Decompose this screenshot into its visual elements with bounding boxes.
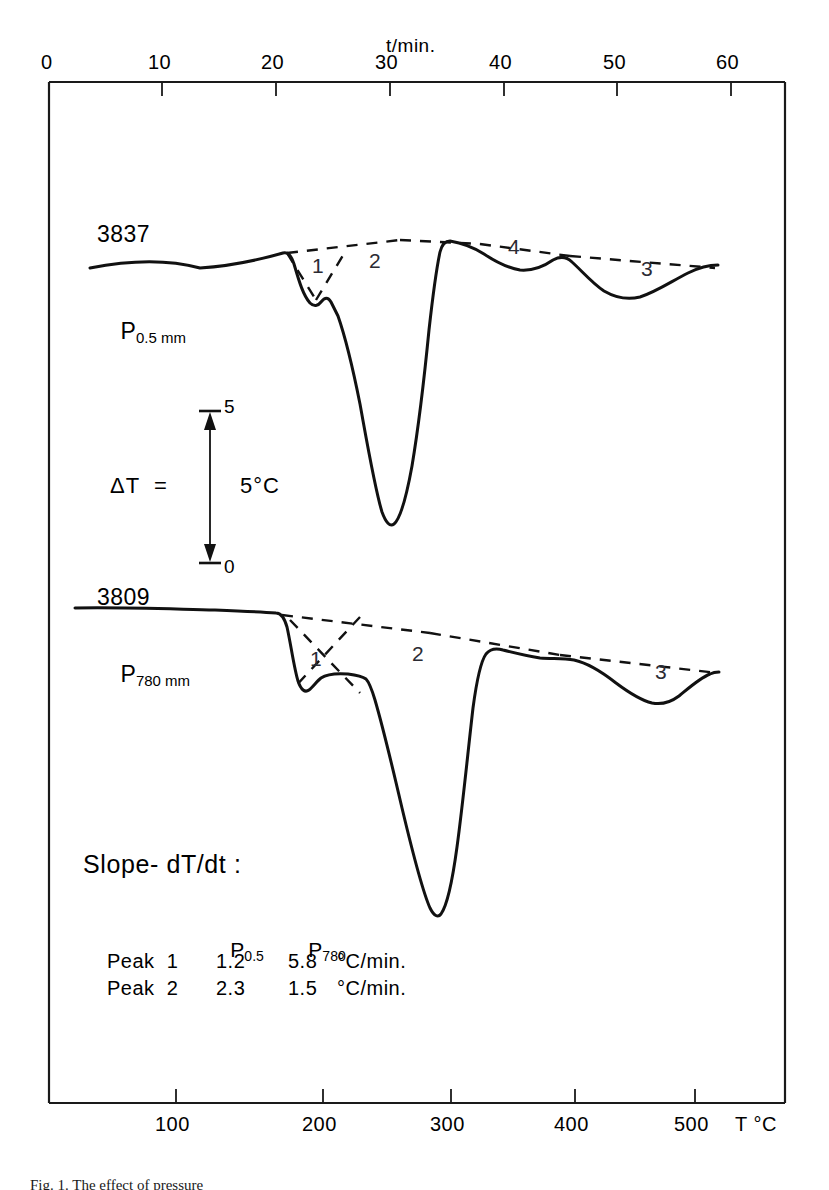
- pressure-symbol-3837: P: [121, 318, 136, 344]
- pressure-subscript-3837: 0.5 mm: [136, 329, 186, 346]
- top-tick-40: 40: [489, 52, 512, 72]
- bottom-tick-400: 400: [554, 1114, 589, 1134]
- curve-3809-baselines: [282, 615, 718, 693]
- peak-label-3837-2: 2: [369, 250, 381, 271]
- delta-t-scale-bar: [199, 411, 221, 563]
- scale-arrow-up: [204, 412, 216, 430]
- peak-label-3809-2: 2: [412, 643, 424, 664]
- top-tick-60: 60: [716, 52, 739, 72]
- slope-row-1-peak: Peak 1: [107, 951, 178, 971]
- curve-pressure-3809: P780 mm: [95, 640, 190, 711]
- top-tick-50: 50: [603, 52, 626, 72]
- scale-bottom-value: 0: [224, 557, 235, 576]
- baseline-3837-peak4-end: [480, 244, 570, 256]
- slope-row-1-units: °C/min.: [337, 951, 406, 971]
- baseline-3837-peak4-start: [400, 240, 480, 244]
- bottom-tick-300: 300: [430, 1114, 465, 1134]
- peak-label-3809-1: 1: [310, 648, 322, 669]
- curve-pressure-3837: P0.5 mm: [95, 297, 186, 368]
- bottom-tick-500: 500: [674, 1114, 709, 1134]
- peak-label-3837-1: 1: [312, 255, 324, 276]
- peak-label-3837-3: 3: [641, 258, 653, 279]
- bottom-tick-100: 100: [155, 1114, 190, 1134]
- scale-top-value: 5: [224, 397, 235, 416]
- baseline-3809-mid: [430, 633, 560, 655]
- peak-label-3837-4: 4: [508, 236, 520, 257]
- top-tick-20: 20: [261, 52, 284, 72]
- peak-label-3809-3: 3: [655, 661, 667, 682]
- pressure-symbol-3809: P: [121, 661, 136, 687]
- slope-row-2-peak: Peak 2: [107, 978, 178, 998]
- slope-row-2-p780: 1.5: [288, 978, 317, 998]
- slope-row-2-p05: 2.3: [216, 978, 245, 998]
- top-tick-30: 30: [375, 52, 398, 72]
- figure-container: t/min. 0 10 20 30 40 50 60 100 200 300 4…: [0, 0, 829, 1190]
- top-axis-ticks: [49, 82, 731, 96]
- slope-table-title: Slope- dT/dt :: [83, 852, 241, 877]
- delta-t-magnitude: 5°C: [240, 475, 280, 497]
- baseline-3837-peak1-2: [287, 240, 400, 253]
- curve-id-3809: 3809: [97, 586, 150, 609]
- bottom-tick-200: 200: [302, 1114, 337, 1134]
- baseline-3809-peak1-left: [292, 617, 360, 690]
- delta-t-label: ΔT =: [110, 475, 168, 497]
- slope-row-1-p05: 1.2: [216, 951, 245, 971]
- scale-arrow-down: [204, 544, 216, 562]
- slope-row-2-units: °C/min.: [337, 978, 406, 998]
- baseline-3809-peak2-top: [282, 615, 430, 633]
- figure-caption: Fig. 1. The effect of pressure: [30, 1177, 530, 1190]
- curve-3837-trace: [90, 241, 718, 525]
- top-tick-10: 10: [148, 52, 171, 72]
- pressure-subscript-3809: 780 mm: [136, 672, 190, 689]
- bottom-axis-label: T °C: [735, 1114, 777, 1134]
- curve-id-3837: 3837: [97, 223, 150, 246]
- col-header-p05-subscript: 0.5: [244, 948, 263, 964]
- bottom-axis-ticks: [176, 1089, 695, 1103]
- top-tick-0: 0: [41, 52, 53, 72]
- slope-row-1-p780: 5.8: [288, 951, 317, 971]
